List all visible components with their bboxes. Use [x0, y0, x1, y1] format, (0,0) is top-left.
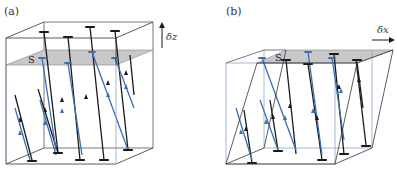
- panel-a: (a) S: [4, 5, 178, 164]
- figure: (a) S: [0, 0, 397, 169]
- panel-a-label: (a): [4, 5, 19, 18]
- panel-b-label: (b): [226, 5, 242, 18]
- delta-x-arrow: [372, 37, 395, 43]
- box-back-edges: [44, 22, 153, 148]
- plane-s-label-b: S: [275, 52, 282, 63]
- delta-x-label: δx: [377, 24, 389, 35]
- delta-z-arrow: [159, 22, 165, 48]
- panel-b: (b) S: [226, 5, 395, 164]
- flux-arrowheads-b: [239, 77, 361, 134]
- delta-z-label: δz: [166, 31, 178, 42]
- arrow-right-icon: [389, 37, 395, 43]
- flux-lines-black-b: [244, 54, 366, 163]
- arrow-up-icon: [159, 22, 165, 28]
- plane-s-label: S: [28, 54, 35, 65]
